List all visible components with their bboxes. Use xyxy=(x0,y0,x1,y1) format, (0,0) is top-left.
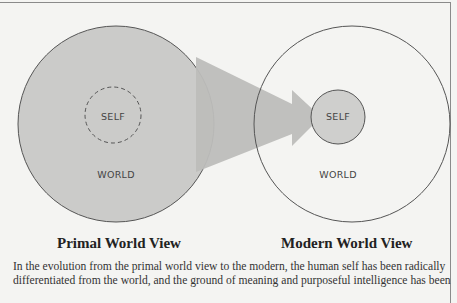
caption-line-2: differentiated from the world, and the g… xyxy=(13,274,453,288)
modern-self-label: SELF xyxy=(326,111,350,122)
primal-title: Primal World View xyxy=(57,235,181,252)
caption-text: In the evolution from the primal world v… xyxy=(13,260,453,288)
primal-world-circle xyxy=(18,26,214,222)
caption-line-1: In the evolution from the primal world v… xyxy=(13,260,453,274)
modern-world-label: WORLD xyxy=(319,169,357,180)
primal-world-label: WORLD xyxy=(97,169,135,180)
primal-self-label: SELF xyxy=(101,111,125,122)
modern-title: Modern World View xyxy=(281,235,412,252)
